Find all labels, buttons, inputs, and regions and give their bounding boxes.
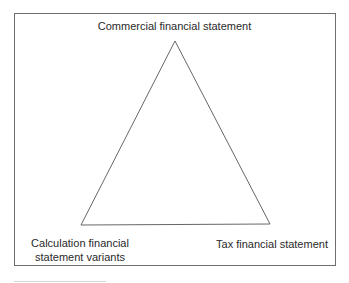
node-label-calculation-financial-statement-variants: Calculation financial statement variants: [28, 236, 132, 264]
node-label-line-1: Calculation financial: [28, 236, 132, 250]
triangle-shape: [81, 41, 270, 225]
node-label-line-2: statement variants: [28, 250, 132, 264]
footer-rule: [14, 281, 106, 282]
node-label-tax-financial-statement: Tax financial statement: [213, 237, 331, 251]
node-label-commercial-financial-statement: Commercial financial statement: [0, 19, 349, 33]
